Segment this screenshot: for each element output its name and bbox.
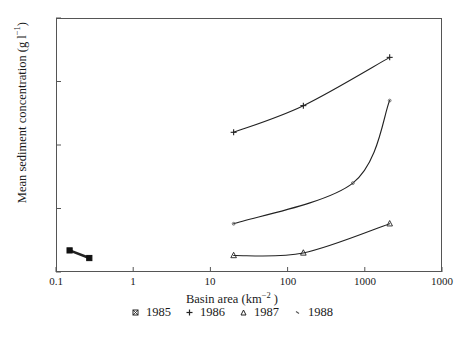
plot-area xyxy=(56,18,442,272)
legend-label-1987: 1987 xyxy=(254,306,279,319)
y-axis-title-main: Mean sediment concentration (g l xyxy=(15,35,29,203)
chart-figure: 2 1.5 1 0.5 0 Mean sediment concentratio… xyxy=(0,0,464,339)
legend-item-1985[interactable]: 1985 xyxy=(131,306,171,319)
crossed-square-icon xyxy=(131,308,140,317)
x-tick-label-1000: 1000 xyxy=(345,276,385,287)
y-axis-title-exponent: −1 xyxy=(12,26,22,35)
dot-icon xyxy=(293,308,302,317)
plus-icon xyxy=(185,308,194,317)
x-axis-title-exponent: −2 xyxy=(262,290,271,300)
legend-label-1988: 1988 xyxy=(308,306,333,319)
x-tick-label-10000: 1000 xyxy=(422,276,462,287)
legend: 1985 1986 1987 xyxy=(0,306,464,319)
y-axis-title: Mean sediment concentration (g l−1) xyxy=(12,0,29,238)
legend-label-1986: 1986 xyxy=(200,306,225,319)
legend-item-1987[interactable]: 1987 xyxy=(239,306,279,319)
x-tick-label-1: 1 xyxy=(113,276,153,287)
triangle-icon xyxy=(239,308,248,317)
x-tick-label-10: 10 xyxy=(190,276,230,287)
x-axis-title: Basin area (km−2 ) xyxy=(0,290,464,307)
x-tick-label-100: 100 xyxy=(268,276,308,287)
x-tick-label-0p1: 0.1 xyxy=(36,276,76,287)
legend-label-1985: 1985 xyxy=(146,306,171,319)
legend-item-1988[interactable]: 1988 xyxy=(293,306,333,319)
legend-item-1986[interactable]: 1986 xyxy=(185,306,225,319)
y-axis-title-tail: ) xyxy=(15,22,29,26)
